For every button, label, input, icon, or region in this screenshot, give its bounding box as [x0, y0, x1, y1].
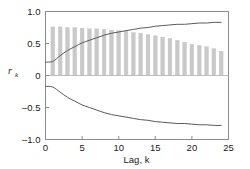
x-tick-label: 5 [79, 142, 84, 153]
x-tick-label: 0 [43, 142, 48, 153]
bar-lag-9 [109, 30, 113, 75]
x-tick-label: 25 [223, 142, 234, 153]
bar-lag-20 [190, 44, 194, 75]
bar-lag-1 [51, 27, 55, 76]
y-tick-label: 1.0 [27, 6, 40, 17]
bar-lag-6 [88, 29, 92, 76]
bar-lag-19 [183, 42, 187, 75]
bar-lag-10 [117, 31, 121, 76]
bar-lag-15 [153, 36, 157, 76]
x-tick-label: 20 [187, 142, 198, 153]
bar-lag-16 [161, 37, 165, 75]
bar-lag-13 [139, 33, 143, 75]
bar-lag-12 [131, 33, 135, 76]
bar-lag-2 [58, 27, 62, 76]
bar-lag-4 [73, 28, 77, 76]
y-tick-label: 0.5 [27, 38, 40, 49]
bar-lag-8 [102, 29, 106, 75]
bar-lag-18 [175, 40, 179, 75]
y-tick-label: –1.0 [22, 134, 41, 145]
bar-lag-11 [124, 31, 128, 75]
bar-lag-22 [205, 47, 209, 76]
x-tick-label: 15 [150, 142, 161, 153]
bar-lag-24 [219, 51, 223, 75]
bar-lag-5 [80, 28, 84, 75]
x-axis-title: Lag, k [124, 154, 150, 165]
y-axis-title: r [8, 65, 12, 76]
bar-lag-21 [197, 45, 201, 75]
bar-lag-7 [95, 29, 99, 76]
y-tick-label: –0.5 [22, 102, 41, 113]
bar-lag-14 [146, 35, 150, 76]
bar-lag-17 [168, 38, 172, 75]
x-tick-label: 10 [113, 142, 124, 153]
acf-chart-svg: 1.00.50–0.5–1.0 0510152025 Lag, k r k [0, 0, 250, 169]
acf-chart: 1.00.50–0.5–1.0 0510152025 Lag, k r k [0, 0, 250, 169]
bar-lag-23 [212, 49, 216, 76]
y-tick-label: 0 [35, 70, 40, 81]
